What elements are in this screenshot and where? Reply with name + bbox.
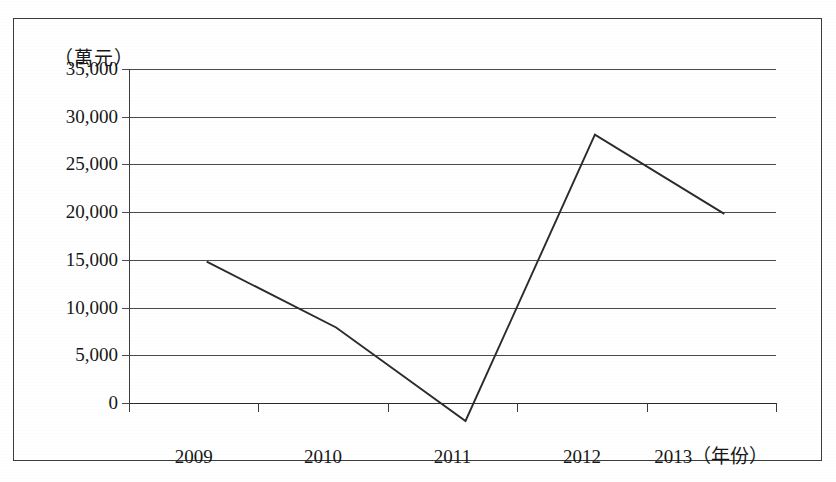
y-tick-label: 10,000: [26, 298, 118, 317]
figure-frame: （萬元） 05,00010,00015,00020,00025,00030,00…: [13, 18, 822, 461]
data-series-layer: [14, 19, 836, 482]
gridline-30000: [129, 117, 776, 118]
gridline-15000: [129, 260, 776, 261]
chart-root: （萬元） 05,00010,00015,00020,00025,00030,00…: [0, 0, 836, 482]
y-tick-mark-35000: [122, 69, 129, 70]
y-tick-mark-15000: [122, 260, 129, 261]
y-tick-mark-10000: [122, 308, 129, 309]
x-tick-mark: [647, 403, 648, 412]
y-tick-label: 35,000: [26, 59, 118, 78]
x-tick-label-2012: 2012: [563, 447, 601, 467]
gridline-0: [129, 403, 776, 404]
x-tick-mark: [776, 403, 777, 412]
x-tick-label-2013: 2013（年份）: [654, 447, 768, 467]
gridline-25000: [129, 164, 776, 165]
x-tick-mark: [388, 403, 389, 412]
y-tick-label: 0: [26, 393, 118, 412]
y-tick-mark-5000: [122, 355, 129, 356]
gridline-5000: [129, 355, 776, 356]
x-tick-mark: [129, 403, 130, 412]
gridline-10000: [129, 308, 776, 309]
y-tick-label: 15,000: [26, 250, 118, 269]
x-tick-label-2010: 2010: [304, 447, 342, 467]
y-tick-mark-25000: [122, 164, 129, 165]
x-tick-label-2009: 2009: [175, 447, 213, 467]
gridline-35000: [129, 69, 776, 70]
x-tick-label-2011: 2011: [434, 447, 471, 467]
gridline-20000: [129, 212, 776, 213]
y-tick-mark-20000: [122, 212, 129, 213]
y-tick-label: 25,000: [26, 154, 118, 173]
y-tick-mark-0: [122, 403, 129, 404]
y-tick-label: 5,000: [26, 345, 118, 364]
y-tick-mark-30000: [122, 117, 129, 118]
y-tick-label: 20,000: [26, 202, 118, 221]
series-line-path: [207, 135, 725, 421]
y-axis-line: [129, 69, 130, 403]
y-tick-label: 30,000: [26, 107, 118, 126]
x-tick-mark: [517, 403, 518, 412]
x-tick-mark: [258, 403, 259, 412]
